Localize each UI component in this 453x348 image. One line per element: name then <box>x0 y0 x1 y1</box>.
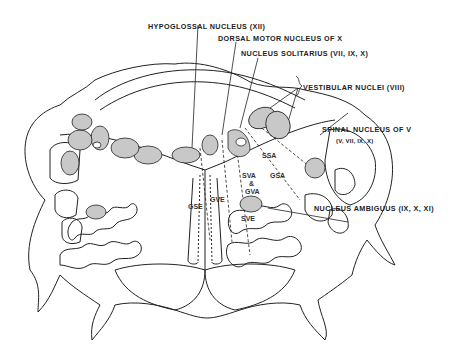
column-label-gsa: GSA <box>270 172 285 179</box>
column-label-sva: SVA <box>242 172 256 179</box>
column-label-ampersand: & <box>249 180 254 187</box>
nucleus-ambiguus <box>240 196 262 212</box>
label-spinal-nucleus-v-nerves: (V, VII, IX, X) <box>336 138 373 144</box>
column-label-sve: SVE <box>241 215 255 222</box>
label-spinal-nucleus-v: SPINAL NUCLEUS OF V <box>322 125 411 134</box>
column-label-gva: GVA <box>245 188 260 195</box>
column-label-ssa: SSA <box>262 152 276 159</box>
column-label-gve: GVE <box>210 196 225 203</box>
spinal-nucleus-v <box>305 158 325 178</box>
medulla-diagram <box>0 0 453 348</box>
label-hypoglossal-nucleus: HYPOGLOSSAL NUCLEUS (XII) <box>148 22 265 31</box>
dorsal-motor-nucleus <box>202 135 218 155</box>
column-label-gse: GSE <box>188 203 203 210</box>
label-dorsal-motor-nucleus: DORSAL MOTOR NUCLEUS OF X <box>218 34 342 43</box>
label-vestibular-nuclei: VESTIBULAR NUCLEI (VIII) <box>303 83 405 92</box>
label-nucleus-solitarius: NUCLEUS SOLITARIUS (VII, IX, X) <box>241 49 368 58</box>
label-nucleus-ambiguus: NUCLEUS AMBIGUUS (IX, X, XI) <box>314 204 434 213</box>
hypoglossal-nucleus-right <box>172 147 200 163</box>
